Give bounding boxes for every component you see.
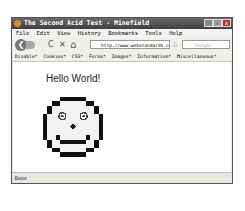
menu-history[interactable]: History — [78, 30, 101, 36]
devbar-information[interactable]: Information* — [137, 54, 171, 59]
devbar-miscellaneous[interactable]: Miscellaneous* — [177, 54, 217, 59]
status-bar: Done — [12, 172, 232, 183]
reload-icon[interactable]: C — [48, 40, 54, 50]
navigation-toolbar: ❮ C ✕ ⌂ http://www.webstandards.org/fi ☆… — [12, 38, 232, 52]
firefox-icon — [14, 20, 21, 27]
stop-icon[interactable]: ✕ — [59, 40, 66, 50]
menu-view[interactable]: View — [57, 30, 70, 36]
menu-tools[interactable]: Tools — [145, 30, 162, 36]
devbar-cookies[interactable]: Cookies* — [43, 54, 66, 59]
home-icon[interactable]: ⌂ — [70, 40, 76, 50]
devbar-images[interactable]: Images* — [112, 54, 132, 59]
forward-button[interactable] — [26, 41, 35, 49]
menu-bookmarks[interactable]: Bookmarks — [108, 30, 138, 36]
browser-window: The Second Acid Test - Minefield _ □ x F… — [11, 17, 233, 184]
search-input[interactable]: Google — [182, 40, 230, 49]
url-input[interactable]: http://www.webstandards.org/fi — [90, 40, 170, 49]
close-button[interactable]: x — [222, 19, 231, 27]
bookmark-star-icon[interactable]: ☆ — [172, 40, 178, 50]
title-bar[interactable]: The Second Acid Test - Minefield _ □ x — [12, 18, 232, 29]
minimize-button[interactable]: _ — [204, 19, 213, 27]
devbar-css[interactable]: CSS* — [72, 54, 83, 59]
devbar-forms[interactable]: Forms* — [89, 54, 106, 59]
devbar-disable[interactable]: Disable* — [15, 54, 38, 59]
page-heading: Hello World! — [46, 73, 100, 84]
menu-bar: File Edit View History Bookmarks Tools H… — [12, 29, 232, 38]
page-content: Hello World! — [13, 62, 231, 173]
window-title: The Second Acid Test - Minefield — [24, 18, 149, 29]
menu-file[interactable]: File — [16, 30, 29, 36]
menu-help[interactable]: Help — [169, 30, 182, 36]
status-text: Done — [15, 175, 27, 181]
maximize-button[interactable]: □ — [213, 19, 222, 27]
menu-edit[interactable]: Edit — [37, 30, 50, 36]
smiley-face-image — [43, 97, 103, 161]
web-developer-toolbar: Disable* Cookies* CSS* Forms* Images* In… — [12, 52, 232, 62]
